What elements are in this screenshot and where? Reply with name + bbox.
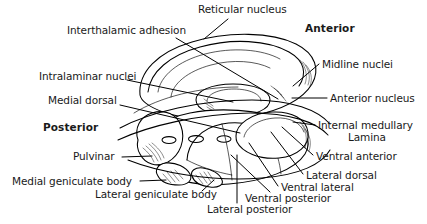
label-lateral-geniculate-body: Lateral geniculate body (95, 189, 217, 201)
thalamus-diagram-figure: .ln { fill:none; stroke:#000; stroke-wid… (0, 0, 427, 224)
label-reticular-nucleus: Reticular nucleus (198, 4, 287, 16)
label-ventral-anterior: Ventral anterior (316, 151, 397, 163)
label-interthalamic-adhesion: Interthalamic adhesion (67, 25, 186, 37)
label-midline-nuclei: Midline nuclei (322, 59, 393, 71)
label-internal-medullary-lamina-line2: Lamina (348, 132, 386, 144)
thalamus-dorsal-surface (140, 34, 316, 119)
label-medial-dorsal: Medial dorsal (48, 95, 117, 107)
label-lateral-posterior: Lateral posterior (207, 204, 292, 216)
label-medial-geniculate-body: Medial geniculate body (12, 176, 132, 188)
label-lateral-dorsal: Lateral dorsal (306, 170, 377, 182)
label-anterior-nucleus: Anterior nucleus (330, 93, 415, 105)
orientation-label-anterior: Anterior (305, 23, 355, 35)
label-intralaminar-nuclei: Intralaminar nuclei (39, 71, 136, 83)
label-pulvinar: Pulvinar (73, 151, 114, 163)
orientation-label-posterior: Posterior (43, 122, 98, 134)
label-internal-medullary-lamina-line1: Internal medullary (318, 120, 413, 132)
